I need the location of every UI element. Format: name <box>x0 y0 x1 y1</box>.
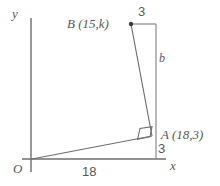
segment-ab <box>131 24 152 136</box>
side-b-label: b <box>159 52 165 64</box>
point-b-marker <box>129 22 133 26</box>
y-axis-label: y <box>12 7 18 20</box>
segment-oa <box>32 136 152 159</box>
point-a-label: A (18,3) <box>161 128 203 141</box>
right-angle-marker <box>138 127 152 140</box>
origin-label: O <box>13 162 22 175</box>
x-axis-label: x <box>170 159 176 172</box>
bottom-segment-length-label: 3 <box>158 142 165 155</box>
point-b-label: B (15,k) <box>67 17 109 30</box>
figure-canvas <box>0 0 220 186</box>
geometry-figure: y x O B (15,k) A (18,3) b 3 3 18 <box>0 0 220 186</box>
top-segment-length-label: 3 <box>138 5 145 18</box>
base-segment-length-label: 18 <box>82 165 96 178</box>
